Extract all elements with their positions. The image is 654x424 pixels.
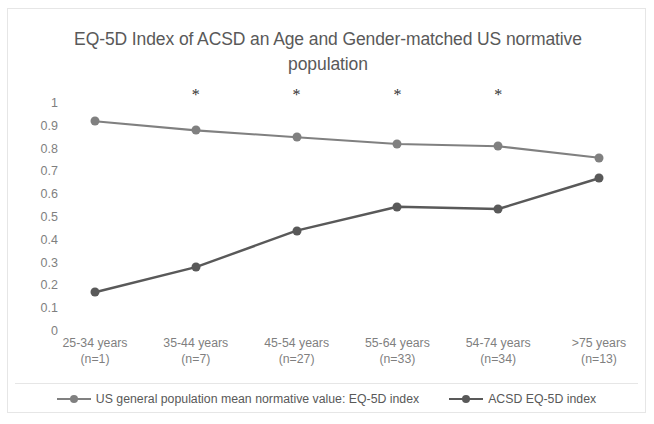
chart-legend: US general population mean normative val… bbox=[15, 383, 638, 414]
x-tick-count-0: (n=1) bbox=[63, 351, 128, 367]
x-tick-range-0: 25-34 years bbox=[63, 335, 128, 351]
y-tick-10: 0 bbox=[51, 324, 58, 338]
plot-area: 10.90.80.70.60.50.40.30.20.10 **** 25-34… bbox=[64, 103, 630, 331]
asterisk-icon-1: * bbox=[293, 87, 301, 103]
legend-item-us-general-population[interactable]: US general population mean normative val… bbox=[57, 392, 419, 406]
asterisk-icon-0: * bbox=[192, 87, 200, 103]
x-tick-range-1: 35-44 years bbox=[163, 335, 228, 351]
data-point-s0-2 bbox=[292, 133, 301, 142]
legend-label-us: US general population mean normative val… bbox=[96, 392, 419, 406]
data-point-s0-4 bbox=[494, 142, 503, 151]
asterisk-icon-2: * bbox=[393, 87, 401, 103]
data-point-s1-3 bbox=[393, 202, 402, 211]
data-point-s0-3 bbox=[393, 140, 402, 149]
x-tick-range-5: >75 years bbox=[572, 335, 626, 351]
series-lines bbox=[64, 103, 630, 331]
y-tick-1: 0.9 bbox=[41, 119, 58, 133]
y-tick-9: 0.1 bbox=[41, 301, 58, 315]
x-tick-3: 55-64 years(n=33) bbox=[365, 335, 430, 367]
data-point-s1-5 bbox=[595, 174, 604, 183]
series-line-1 bbox=[95, 178, 599, 292]
x-tick-1: 35-44 years(n=7) bbox=[163, 335, 228, 367]
x-tick-5: >75 years(n=13) bbox=[572, 335, 626, 367]
data-point-s1-4 bbox=[494, 205, 503, 214]
y-tick-5: 0.5 bbox=[41, 210, 58, 224]
data-point-s0-0 bbox=[91, 117, 100, 126]
y-tick-8: 0.2 bbox=[41, 278, 58, 292]
data-point-s0-1 bbox=[191, 126, 200, 135]
asterisk-icon-3: * bbox=[494, 87, 502, 103]
x-tick-0: 25-34 years(n=1) bbox=[63, 335, 128, 367]
chart-title-line-1: EQ-5D Index of ACSD an Age and Gender-ma… bbox=[74, 29, 501, 49]
legend-marker-icon-us bbox=[57, 394, 91, 404]
chart-title: EQ-5D Index of ACSD an Age and Gender-ma… bbox=[68, 27, 588, 77]
x-tick-range-3: 55-64 years bbox=[365, 335, 430, 351]
legend-item-acsd[interactable]: ACSD EQ-5D index bbox=[449, 392, 596, 406]
chart-frame: EQ-5D Index of ACSD an Age and Gender-ma… bbox=[7, 8, 646, 413]
x-tick-range-2: 45-54 years bbox=[264, 335, 329, 351]
y-tick-0: 1 bbox=[51, 96, 58, 110]
x-tick-count-4: (n=34) bbox=[466, 351, 531, 367]
x-tick-4: 54-74 years(n=34) bbox=[466, 335, 531, 367]
x-tick-2: 45-54 years(n=27) bbox=[264, 335, 329, 367]
data-point-s1-1 bbox=[191, 263, 200, 272]
x-tick-count-1: (n=7) bbox=[163, 351, 228, 367]
data-point-s0-5 bbox=[595, 153, 604, 162]
y-tick-6: 0.4 bbox=[41, 233, 58, 247]
data-point-s1-2 bbox=[292, 226, 301, 235]
x-tick-count-3: (n=33) bbox=[365, 351, 430, 367]
data-point-s1-0 bbox=[91, 288, 100, 297]
y-tick-2: 0.8 bbox=[41, 142, 58, 156]
y-tick-3: 0.7 bbox=[41, 164, 58, 178]
x-tick-range-4: 54-74 years bbox=[466, 335, 531, 351]
x-tick-count-5: (n=13) bbox=[572, 351, 626, 367]
y-tick-7: 0.3 bbox=[41, 256, 58, 270]
legend-label-acsd: ACSD EQ-5D index bbox=[488, 392, 596, 406]
series-line-0 bbox=[95, 121, 599, 157]
x-tick-count-2: (n=27) bbox=[264, 351, 329, 367]
y-tick-4: 0.6 bbox=[41, 187, 58, 201]
legend-marker-icon-acsd bbox=[449, 394, 483, 404]
